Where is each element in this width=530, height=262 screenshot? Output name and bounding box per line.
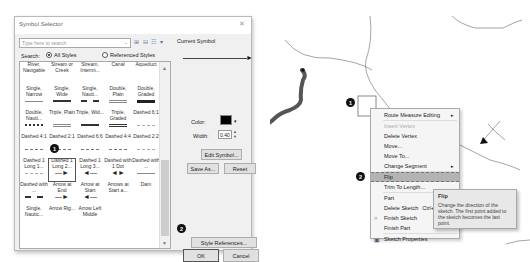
symbol-item-label: Dashed 1 Long 1...	[20, 158, 48, 169]
line-symbol-preview-icon	[52, 217, 72, 225]
symbol-item[interactable]: Arrow at End—►	[48, 182, 76, 206]
symbol-item-label: Arrow at End	[48, 182, 76, 193]
symbol-item-label: Dashed with ...	[132, 158, 160, 169]
symbol-item[interactable]: Double, Graded	[132, 86, 160, 110]
symbol-item-label: Arrow at Start	[76, 182, 104, 193]
line-symbol-preview-icon	[80, 145, 100, 153]
symbol-item[interactable]: Dashed 2:2	[132, 134, 160, 158]
symbol-item-label: Dashed 6:1	[133, 110, 159, 121]
symbol-item[interactable]: Dashed 6:6	[76, 134, 104, 158]
symbol-item[interactable]: Double, Plain	[104, 86, 132, 110]
symbol-item[interactable]: River, Navigable	[20, 62, 48, 86]
symbol-item-label: Dashed 1 Long 2...	[48, 158, 76, 169]
style-references-button[interactable]: Style References...	[191, 237, 257, 248]
line-symbol-preview-icon: ◄—	[80, 193, 100, 201]
menu-item-move[interactable]: Move...	[371, 141, 459, 151]
symbol-item-label: Triple, Graded	[104, 110, 132, 121]
symbol-item[interactable]: Arrow Rig...	[48, 206, 76, 230]
menu-item-label: Move To...	[384, 153, 409, 159]
symbol-item[interactable]: Double, Nauti...	[20, 110, 48, 134]
symbol-item[interactable]: Triple, Plain	[48, 110, 76, 134]
menu-item-insert-vertex[interactable]: Insert Vertex	[371, 121, 459, 131]
menu-item-label: Insert Vertex	[384, 123, 415, 129]
line-symbol-preview-icon	[24, 217, 44, 225]
menu-item-route-measure-editing[interactable]: Route Measure Editing▸	[371, 110, 459, 120]
menu-item-label: Trim To Length...	[384, 184, 425, 190]
symbol-item[interactable]: Dashed 1 Long 2...—►	[48, 158, 76, 182]
search-input[interactable]: Type here to search	[19, 38, 131, 48]
scrollbar-thumb[interactable]	[161, 160, 169, 236]
edit-symbol-button[interactable]: Edit Symbol...	[201, 149, 242, 160]
symbol-item-label: Dashed 4:4	[105, 134, 131, 145]
symbol-item[interactable]: Dashed 1 Long 1...	[20, 158, 48, 182]
callout-badge-2: 2	[177, 224, 186, 233]
symbol-item[interactable]: Stream, Intermi...	[76, 62, 104, 86]
width-input[interactable]: 0.40	[218, 130, 232, 139]
save-as-button[interactable]: Save As...	[187, 163, 219, 174]
width-stepper-icon[interactable]: ▲▼	[233, 129, 237, 139]
symbol-item[interactable]: Single, Nautic...	[20, 206, 48, 230]
close-icon[interactable]: ✕	[239, 20, 245, 28]
callout-badge-2: 2	[356, 172, 365, 181]
current-symbol-label: Current Symbol	[177, 38, 215, 44]
line-symbol-preview-icon	[136, 73, 156, 81]
radio-referenced-styles[interactable]: Referenced Styles	[102, 52, 155, 58]
symbol-item-label: Triple, Plain	[49, 110, 75, 121]
dialog-titlebar[interactable]: Symbol Selector ✕	[15, 17, 251, 34]
chevron-down-icon[interactable]: ⌄	[124, 39, 128, 45]
symbol-item-label: Arrows at Start a...	[104, 182, 132, 193]
symbol-item[interactable]: Dashed 6:1	[132, 110, 160, 134]
symbol-item-label: Double, Nauti...	[20, 110, 48, 121]
radio-dot[interactable]	[46, 52, 52, 58]
symbol-item[interactable]: Arrow at Start◄—	[76, 182, 104, 206]
symbol-item[interactable]: Dashed 4:1	[20, 134, 48, 158]
radio-dot[interactable]	[102, 52, 108, 58]
line-symbol-preview-icon	[80, 217, 100, 225]
chevron-down-icon[interactable]: ▾	[234, 118, 237, 124]
view-options-icon[interactable]: ⊞ ⊟ ☷ ▾	[134, 38, 164, 45]
symbol-item-label: Dashed 6:6	[77, 134, 103, 145]
symbol-item[interactable]: Dashed 4:4	[104, 134, 132, 158]
gallery-scrollbar[interactable]: ▲ ▼	[159, 62, 170, 248]
symbol-item[interactable]: Aqueduct	[132, 62, 160, 86]
flip-tooltip: Flip Change the direction of the sketch.…	[433, 189, 517, 229]
symbol-item[interactable]: Dashed with 1 Dot◄►	[104, 158, 132, 182]
symbol-item[interactable]: Dashed 1 Long 3...◄—	[76, 158, 104, 182]
width-label: Width:	[193, 133, 209, 139]
menu-item-change-segment[interactable]: Change Segment▸	[371, 161, 459, 171]
screenshot-root: Symbol Selector ✕ Type here to search ⌄ …	[0, 0, 530, 262]
symbol-item[interactable]: Canal	[104, 62, 132, 86]
symbol-item[interactable]: Triple, Wid...	[76, 110, 104, 134]
scroll-up-icon[interactable]: ▲	[162, 65, 167, 71]
symbol-item[interactable]: Dam	[132, 182, 160, 206]
symbol-item[interactable]: Single, Narrow	[20, 86, 48, 110]
menu-item-flip[interactable]: Flip	[371, 172, 459, 182]
symbol-item-label: Dam	[141, 182, 152, 193]
symbol-item[interactable]: Single, Wide	[48, 86, 76, 110]
reset-button[interactable]: Reset	[224, 163, 256, 174]
ok-button[interactable]: OK	[183, 249, 219, 262]
tooltip-body: Change the direction of the sketch. The …	[438, 202, 512, 226]
menu-item-move-to[interactable]: Move To...	[371, 151, 459, 161]
symbol-item[interactable]: Dashed with ...	[20, 182, 48, 206]
cancel-button[interactable]: Cancel	[223, 249, 259, 262]
radio-all-styles[interactable]: All Styles	[46, 52, 77, 58]
menu-item-sketch-properties[interactable]: ▣Sketch Properties	[371, 234, 459, 244]
color-picker[interactable]	[220, 115, 232, 125]
symbol-item[interactable]: Arrows at Start a...	[104, 182, 132, 206]
line-symbol-preview-icon	[136, 145, 156, 153]
symbol-item[interactable]: Stream or Creek	[48, 62, 76, 86]
line-symbol-preview-icon	[108, 97, 128, 105]
dialog-title: Symbol Selector	[19, 21, 63, 27]
symbol-item[interactable]: Arrow Left Middle	[76, 206, 104, 230]
symbol-item[interactable]: Triple, Graded	[104, 110, 132, 134]
color-label: Color:	[191, 119, 206, 125]
scroll-down-icon[interactable]: ▼	[162, 240, 167, 246]
line-symbol-preview-icon	[136, 121, 156, 129]
symbol-item[interactable]: Single, Nauti...	[76, 86, 104, 110]
symbol-item[interactable]: Dashed with ...	[132, 158, 160, 182]
line-symbol-preview-icon: ◄►	[108, 169, 128, 177]
menu-item-delete-vertex[interactable]: Delete Vertex	[371, 131, 459, 141]
vertex-marker	[301, 68, 305, 72]
symbol-item-label: Dashed 1 Long 3...	[76, 158, 104, 169]
